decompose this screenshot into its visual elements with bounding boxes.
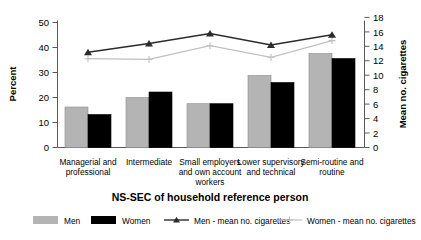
right-ticklabel-0: 0: [373, 142, 378, 153]
bar-men-2: [187, 104, 210, 148]
axis-left: 50 40 30 20 10 0 Percent: [7, 17, 58, 153]
legend-swatch-men: [33, 216, 58, 224]
category-label-0-line-0: Managerial and: [59, 157, 117, 167]
left-ticklabel-20: 20: [38, 92, 49, 103]
chart-svg: 50 40 30 20 10 0 Percent 18 16 14 12 10: [0, 0, 421, 240]
bar-men-0: [65, 107, 88, 148]
bar-women-2: [210, 104, 233, 148]
left-ticklabel-30: 30: [38, 67, 49, 78]
category-label-0-line-1: professional: [66, 167, 111, 177]
legend-label-women-cigarettes: Women - mean no. cigarettes: [307, 216, 416, 226]
chart-container: 50 40 30 20 10 0 Percent 18 16 14 12 10: [0, 0, 421, 240]
right-ticklabel-2: 2: [373, 128, 378, 139]
right-ticklabel-12: 12: [373, 55, 384, 66]
bar-men-4: [309, 54, 332, 148]
right-ticklabel-10: 10: [373, 70, 384, 81]
bar-women-4: [332, 59, 355, 148]
bar-women-1: [149, 92, 172, 148]
category-label-4-line-1: routine: [319, 167, 345, 177]
category-label-3-line-1: and technical: [247, 167, 296, 177]
left-ticklabel-40: 40: [38, 42, 49, 53]
chart-legend: Men Women Men - mean no. cigarettes Wome…: [33, 216, 416, 226]
right-ticklabel-18: 18: [373, 12, 384, 23]
left-axis-title: Percent: [7, 66, 18, 102]
legend-label-men: Men: [64, 216, 81, 226]
right-ticklabel-4: 4: [373, 113, 378, 124]
bar-women-3: [271, 83, 294, 148]
left-ticklabel-10: 10: [38, 117, 49, 128]
right-ticklabel-16: 16: [373, 27, 384, 38]
left-ticklabel-0: 0: [44, 142, 49, 153]
legend-label-men-cigarettes: Men - mean no. cigarettes: [194, 216, 290, 226]
category-label-4-line-0: Semi-routine and: [300, 157, 364, 167]
category-labels: Managerial and professional Intermediate…: [59, 157, 364, 187]
bar-men-3: [248, 76, 271, 148]
x-axis-title: NS-SEC of household reference person: [112, 191, 309, 203]
bar-men-1: [126, 98, 149, 148]
category-label-3-line-0: Lower supervisory: [237, 157, 305, 167]
right-axis-title: Mean no. cigarettes: [397, 40, 408, 129]
right-ticklabel-6: 6: [373, 99, 378, 110]
category-label-2-line-2: workers: [194, 177, 224, 187]
category-label-1-line-0: Intermediate: [126, 157, 173, 167]
category-label-2-line-0: Small employers: [179, 157, 240, 167]
legend-label-women: Women: [122, 216, 151, 226]
legend-swatch-women: [91, 216, 116, 224]
axis-right: 18 16 14 12 10 8 6 4 2 0 Mean no. cigare…: [365, 12, 409, 153]
left-ticklabel-50: 50: [38, 17, 49, 28]
category-label-2-line-1: and own account: [179, 167, 242, 177]
right-ticklabel-8: 8: [373, 84, 378, 95]
right-ticklabel-14: 14: [373, 41, 384, 52]
bar-women-0: [88, 115, 111, 148]
